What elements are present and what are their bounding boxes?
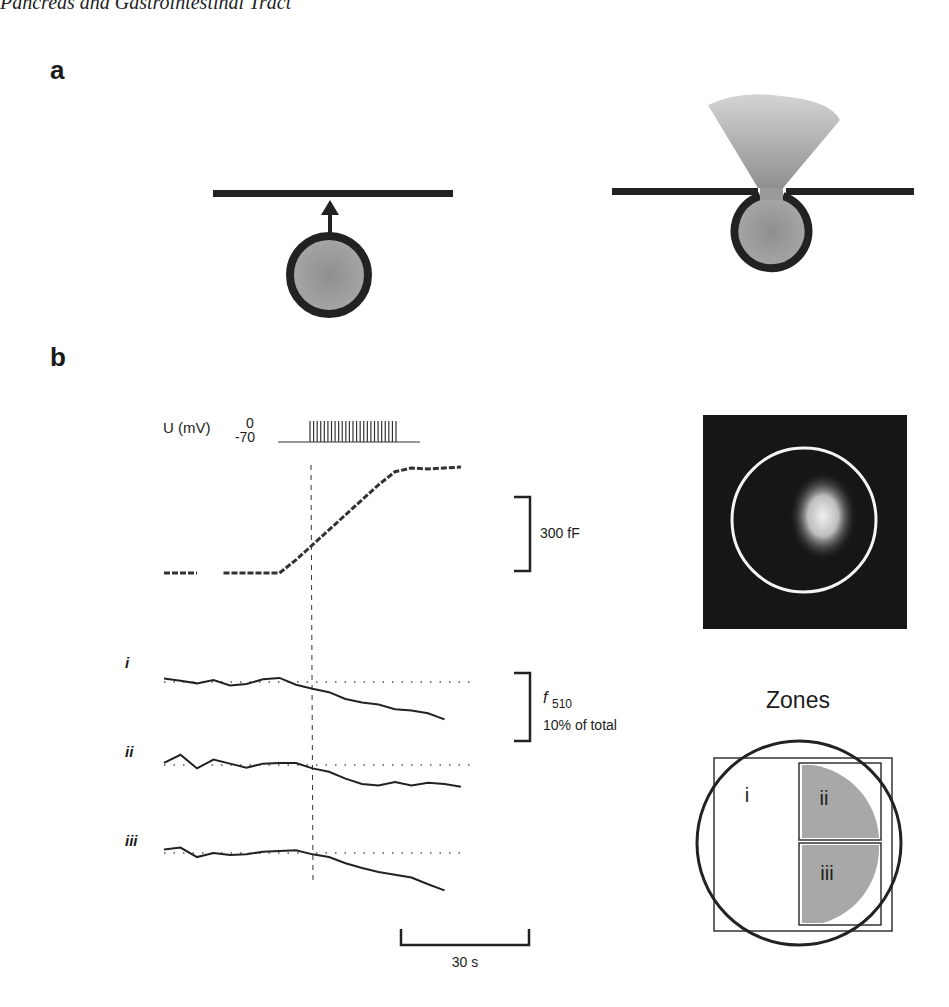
- voltage-axis-label: U (mV): [163, 419, 211, 436]
- released-content-plume: [708, 94, 840, 188]
- svg-text:ii: ii: [125, 743, 134, 760]
- svg-text:iii: iii: [125, 832, 138, 849]
- capacitance-scale-bar: 300 fF: [514, 497, 580, 571]
- arrow-up-icon: [321, 200, 339, 233]
- time-scale-bar: 30 s: [401, 929, 529, 970]
- fluorescence-trace-i: [164, 678, 445, 719]
- fused-vesicle: [735, 196, 809, 268]
- zone-ii-area: [802, 765, 879, 838]
- fluorescence-trace-iii: [164, 848, 445, 891]
- figure-canvas: U (mV) 0 -70 300 fF i ii iii f 510 10% o…: [0, 0, 949, 1007]
- zone-label-iii: iii: [820, 862, 833, 884]
- plasma-membrane: [612, 188, 758, 195]
- schematic-vesicle-approaching: [213, 190, 453, 314]
- plasma-membrane: [213, 190, 453, 197]
- fluorescence-image: [703, 415, 907, 629]
- fusion-pore: [760, 188, 783, 200]
- zone-label-i: i: [745, 784, 749, 806]
- trace-label-i: i: [125, 654, 130, 671]
- capacitance-scale-label: 300 fF: [540, 525, 580, 541]
- f-subscript: 510: [552, 697, 572, 711]
- zone-label-ii: ii: [820, 787, 829, 809]
- zone-iii-area: [802, 845, 879, 923]
- capacitance-trace: [164, 467, 461, 573]
- schematic-vesicle-fused: [612, 94, 914, 268]
- zones-title: Zones: [766, 687, 830, 713]
- time-scale-label: 30 s: [452, 954, 478, 970]
- svg-text:i: i: [125, 654, 130, 671]
- fluorescence-spot: [789, 471, 857, 561]
- trace-label-iii: iii: [125, 832, 138, 849]
- secretory-vesicle: [290, 236, 368, 314]
- trace-label-ii: ii: [125, 743, 134, 760]
- voltage-protocol: U (mV) 0 -70: [163, 415, 420, 445]
- f-symbol: f: [543, 689, 549, 706]
- fluorescence-scale-label: 10% of total: [543, 717, 617, 733]
- stimulus-onset-line: [311, 465, 313, 883]
- fluorescence-scale-bar: f 510 10% of total: [514, 673, 617, 741]
- zones-diagram: i ii iii: [697, 741, 901, 945]
- voltage-tick-minus70: -70: [235, 429, 255, 445]
